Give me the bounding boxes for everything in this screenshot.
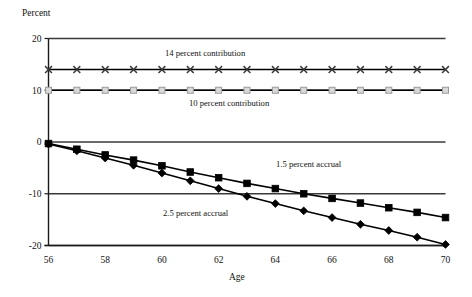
data-point-marker [443, 87, 449, 93]
x-tick-label: 62 [214, 255, 224, 265]
x-tick-label: 68 [384, 255, 394, 265]
x-tick-label: 60 [157, 255, 167, 265]
y-tick-label: -10 [29, 189, 42, 199]
data-point-marker [385, 204, 392, 211]
data-point-marker [329, 87, 335, 93]
data-point-marker [244, 180, 251, 187]
data-point-marker [300, 190, 307, 197]
line-chart-plot: 5658606264666870 20100-10-20 14 percent … [0, 0, 472, 297]
data-point-marker [272, 87, 278, 93]
data-point-marker [244, 87, 250, 93]
x-tick-label: 70 [441, 255, 451, 265]
data-point-marker [357, 220, 365, 228]
x-tick-label: 66 [327, 255, 337, 265]
data-point-marker [329, 195, 336, 202]
series-annotation: 10 percent contribution [189, 98, 270, 108]
series-annotation: 14 percent contribution [165, 48, 246, 58]
data-point-marker [271, 200, 279, 208]
series-group [45, 66, 450, 248]
x-tick-label: 64 [271, 255, 281, 265]
series-annotation: 2.5 percent accrual [163, 208, 229, 218]
data-point-marker [442, 241, 450, 249]
data-point-marker [413, 233, 421, 241]
data-point-marker [442, 214, 449, 221]
data-point-marker [300, 207, 308, 215]
data-point-marker [187, 87, 193, 93]
data-point-marker [414, 87, 420, 93]
data-point-marker [215, 174, 222, 181]
data-point-marker [357, 200, 364, 207]
y-tick-label: 0 [37, 137, 42, 147]
data-point-marker [385, 227, 393, 235]
series-2 [46, 87, 449, 93]
data-point-marker [215, 185, 223, 193]
data-point-marker [131, 87, 137, 93]
data-point-marker [46, 87, 52, 93]
y-tick-label: -20 [29, 241, 42, 251]
data-point-marker [357, 87, 363, 93]
data-point-marker [386, 87, 392, 93]
data-point-marker [301, 87, 307, 93]
data-point-marker [102, 87, 108, 93]
data-point-marker [186, 177, 194, 185]
x-tick-label: 58 [100, 255, 110, 265]
x-tick-labels-group: 5658606264666870 [44, 255, 451, 265]
y-tick-label: 20 [32, 34, 42, 44]
series-annotation: 1.5 percent accrual [276, 159, 342, 169]
data-point-marker [272, 185, 279, 192]
series-1 [45, 66, 449, 73]
data-point-marker [187, 169, 194, 176]
y-tick-labels-group: 20100-10-20 [29, 34, 42, 251]
x-tick-label: 56 [44, 255, 54, 265]
chart-figure: Percent Age 5658606264666870 20100-10-20… [0, 0, 472, 297]
y-tick-label: 10 [32, 86, 42, 96]
series-3 [45, 140, 449, 221]
data-point-marker [216, 87, 222, 93]
data-point-marker [328, 214, 336, 222]
data-point-marker [159, 163, 166, 170]
data-point-marker [74, 87, 80, 93]
data-point-marker [414, 209, 421, 216]
data-point-marker [159, 87, 165, 93]
annotations-group: 14 percent contribution10 percent contri… [163, 48, 342, 218]
data-point-marker [158, 169, 166, 177]
